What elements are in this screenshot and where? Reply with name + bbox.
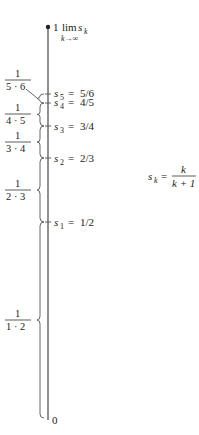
point-s3: s 3 = 3/4	[54, 120, 95, 135]
svg-text:3 · 4: 3 · 4	[6, 143, 26, 154]
braces	[26, 89, 44, 418]
svg-text:s: s	[54, 216, 58, 228]
svg-text:k: k	[154, 176, 158, 185]
svg-text:2: 2	[60, 158, 64, 167]
svg-text:1/2: 1/2	[80, 216, 94, 228]
limit-sub: k	[84, 27, 88, 36]
bottom-label: 0	[52, 414, 58, 426]
svg-text:1: 1	[60, 222, 64, 231]
point-s1: s 1 = 1/2	[54, 216, 94, 231]
svg-text:s: s	[54, 96, 58, 108]
formula: s k = k k + 1	[148, 163, 196, 189]
fraction-3-4: 1 3 · 4	[5, 130, 31, 154]
svg-text:1: 1	[15, 68, 20, 79]
limit-var: s	[78, 21, 82, 33]
limit-under: k→∞	[61, 34, 79, 43]
top-label: 1	[53, 21, 59, 33]
svg-text:3/4: 3/4	[80, 120, 95, 132]
brace-4-5	[37, 103, 44, 126]
fraction-4-5: 1 4 · 5	[5, 102, 31, 126]
svg-text:=: =	[68, 120, 74, 132]
svg-text:5: 5	[60, 93, 64, 102]
svg-text:2 · 3: 2 · 3	[6, 191, 25, 202]
svg-text:s: s	[54, 152, 58, 164]
svg-text:5 · 6: 5 · 6	[6, 81, 25, 92]
fraction-2-3: 1 2 · 3	[5, 178, 31, 202]
svg-text:3: 3	[60, 126, 64, 135]
svg-text:s: s	[54, 120, 58, 132]
brace-5-6	[37, 94, 44, 103]
point-s2: s 2 = 2/3	[54, 152, 95, 167]
brace-1-2	[37, 222, 44, 418]
leader-5-6	[26, 89, 37, 98]
fraction-1-2: 1 1 · 2	[5, 308, 31, 332]
svg-text:=: =	[68, 152, 74, 164]
svg-text:=: =	[161, 170, 167, 182]
limit-op: lim	[62, 21, 77, 33]
svg-text:s: s	[148, 170, 152, 182]
svg-text:=: =	[68, 216, 74, 228]
svg-text:4/5: 4/5	[80, 96, 95, 108]
svg-text:1 · 2: 1 · 2	[6, 321, 25, 332]
svg-text:1: 1	[15, 130, 20, 141]
svg-text:k: k	[181, 163, 187, 175]
limit-dot	[46, 25, 50, 29]
brace-2-3	[37, 158, 44, 222]
svg-text:1: 1	[15, 308, 20, 319]
series-diagram: 1 lim s k k→∞ s 5 = 5/6 s 4 = 4/5 s 3 = …	[0, 0, 199, 435]
svg-text:4: 4	[60, 102, 64, 111]
brace-3-4	[37, 126, 44, 158]
svg-text:k + 1: k + 1	[172, 177, 195, 189]
svg-text:4 · 5: 4 · 5	[6, 115, 25, 126]
svg-text:2/3: 2/3	[80, 152, 95, 164]
svg-text:1: 1	[15, 178, 20, 189]
svg-text:=: =	[68, 96, 74, 108]
svg-text:1: 1	[15, 102, 20, 113]
fraction-5-6: 1 5 · 6	[5, 68, 31, 92]
